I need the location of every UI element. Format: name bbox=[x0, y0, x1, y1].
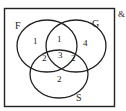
region-f-only: 1 bbox=[33, 36, 38, 46]
region-g-s: 2 bbox=[71, 53, 76, 63]
set-f-label: F bbox=[15, 20, 21, 31]
set-s-label: S bbox=[76, 92, 82, 103]
region-s-only: 2 bbox=[57, 74, 62, 84]
universal-set-label: & bbox=[118, 9, 125, 19]
set-f-circle bbox=[17, 20, 77, 72]
set-g-label: G bbox=[92, 18, 99, 29]
venn-diagram: & F G S 1 1 4 2 3 2 2 bbox=[0, 0, 126, 111]
region-f-g: 1 bbox=[57, 34, 62, 44]
region-f-s: 2 bbox=[42, 53, 47, 63]
region-f-g-s: 3 bbox=[58, 50, 63, 60]
region-g-only: 4 bbox=[83, 38, 88, 48]
